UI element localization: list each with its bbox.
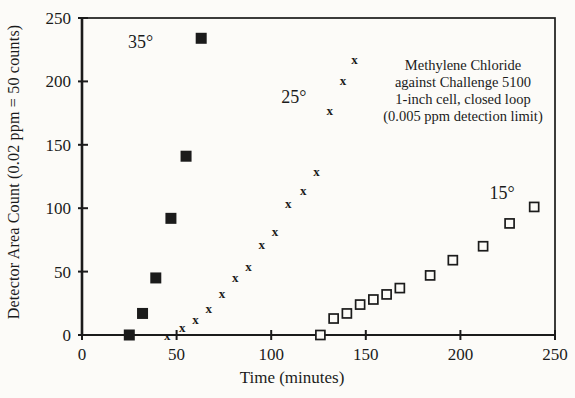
x-tick-label: 0 bbox=[78, 345, 87, 364]
y-tick-label: 0 bbox=[63, 326, 72, 345]
chart-annotation: Methylene Chloride against Challenge 510… bbox=[352, 57, 574, 125]
data-point-15deg bbox=[369, 295, 378, 304]
data-point-25deg: x bbox=[285, 196, 292, 211]
data-point-35deg bbox=[150, 272, 161, 283]
data-point-25deg: x bbox=[272, 224, 279, 239]
y-tick-label: 250 bbox=[46, 9, 72, 28]
data-point-25deg: x bbox=[327, 103, 334, 118]
data-point-15deg bbox=[342, 309, 351, 318]
data-point-25deg: x bbox=[245, 259, 252, 274]
x-axis-title: Time (minutes) bbox=[240, 368, 345, 388]
data-point-25deg: x bbox=[300, 183, 307, 198]
data-point-15deg bbox=[530, 202, 539, 211]
y-tick-label: 200 bbox=[46, 72, 72, 91]
data-point-25deg: x bbox=[179, 320, 186, 335]
y-tick-label: 150 bbox=[46, 136, 72, 155]
data-point-15deg bbox=[356, 300, 365, 309]
data-point-25deg: x bbox=[206, 301, 213, 316]
series-label-35deg: 35° bbox=[128, 32, 153, 52]
data-point-15deg bbox=[479, 242, 488, 251]
data-point-25deg: x bbox=[192, 312, 199, 327]
data-point-15deg bbox=[316, 331, 325, 340]
annotation-line-3: 1-inch cell, closed loop bbox=[352, 91, 574, 108]
data-point-15deg bbox=[395, 284, 404, 293]
data-point-15deg bbox=[426, 271, 435, 280]
data-point-35deg bbox=[124, 330, 135, 341]
x-tick-label: 250 bbox=[542, 345, 568, 364]
data-point-25deg: x bbox=[340, 73, 347, 88]
data-point-25deg: x bbox=[219, 286, 226, 301]
series-label-15deg: 15° bbox=[489, 183, 514, 203]
series-label-25deg: 25° bbox=[281, 87, 306, 107]
chart-page: 05010015020025005010015020025035°xxxxxxx… bbox=[0, 0, 575, 398]
x-tick-label: 200 bbox=[448, 345, 474, 364]
x-tick-label: 150 bbox=[353, 345, 379, 364]
data-point-25deg: x bbox=[258, 237, 265, 252]
data-point-35deg bbox=[181, 151, 192, 162]
data-point-35deg bbox=[196, 33, 207, 44]
data-point-15deg bbox=[505, 219, 514, 228]
y-tick-label: 50 bbox=[54, 263, 71, 282]
x-tick-label: 100 bbox=[258, 345, 284, 364]
data-point-15deg bbox=[448, 256, 457, 265]
data-point-35deg bbox=[137, 308, 148, 319]
x-tick-label: 50 bbox=[168, 345, 185, 364]
data-point-25deg: x bbox=[313, 164, 320, 179]
annotation-line-4: (0.005 ppm detection limit) bbox=[352, 108, 574, 125]
data-point-15deg bbox=[329, 314, 338, 323]
annotation-line-1: Methylene Chloride bbox=[352, 57, 574, 74]
data-point-25deg: x bbox=[232, 270, 239, 285]
data-point-35deg bbox=[165, 213, 176, 224]
data-point-15deg bbox=[382, 290, 391, 299]
annotation-line-2: against Challenge 5100 bbox=[352, 74, 574, 91]
y-axis-title: Detector Area Count (0.02 ppm = 50 count… bbox=[5, 25, 23, 320]
y-tick-label: 100 bbox=[46, 199, 72, 218]
data-point-25deg: x bbox=[164, 328, 171, 343]
